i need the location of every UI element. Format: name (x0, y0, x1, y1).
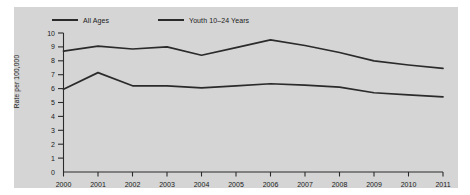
y-axis-tick-label: 3 (41, 127, 55, 134)
y-axis-tick-label: 0 (41, 169, 55, 176)
series-line-youth (64, 40, 444, 68)
y-axis-label: Rate per 100,000 (13, 47, 20, 117)
x-axis-tick-label: 2008 (322, 181, 358, 188)
x-axis-tick-label: 2000 (46, 181, 82, 188)
y-axis-tick-label: 1 (41, 155, 55, 162)
y-axis-tick-label: 4 (41, 113, 55, 120)
y-axis-tick-label: 10 (41, 30, 55, 37)
x-axis-tick-label: 2005 (218, 181, 254, 188)
x-axis-tick-label: 2004 (184, 181, 220, 188)
series-line-all-ages (64, 73, 444, 97)
y-axis-tick-label: 8 (41, 57, 55, 64)
y-axis-tick-label: 7 (41, 71, 55, 78)
chart-figure: All Ages Youth 10–24 Years Rate per 100,… (0, 0, 470, 195)
x-axis-tick-label: 2006 (253, 181, 289, 188)
x-axis-tick-label: 2003 (149, 181, 185, 188)
y-axis-tick-label: 6 (41, 85, 55, 92)
x-axis-tick-label: 2002 (115, 181, 151, 188)
y-axis-tick-label: 9 (41, 43, 55, 50)
x-axis-tick-label: 2009 (356, 181, 392, 188)
chart-plot-svg (0, 0, 470, 195)
y-axis-tick-label: 2 (41, 141, 55, 148)
plot-area: Rate per 100,000 109876543210 2000200120… (0, 0, 470, 195)
x-axis-tick-label: 2007 (287, 181, 323, 188)
y-axis-tick-label: 5 (41, 99, 55, 106)
x-axis-tick-label: 2010 (391, 181, 427, 188)
x-axis-tick-label: 2001 (80, 181, 116, 188)
x-axis-tick-label: 2011 (425, 181, 461, 188)
